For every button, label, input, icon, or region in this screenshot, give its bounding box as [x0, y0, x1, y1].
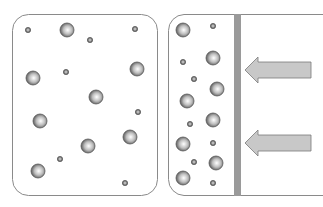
small-particle: [132, 26, 137, 31]
large-particle: [26, 71, 40, 85]
large-particle: [209, 156, 223, 170]
small-particle: [210, 23, 215, 28]
small-particle: [63, 69, 68, 74]
small-particle: [57, 156, 62, 161]
small-particle: [87, 37, 92, 42]
small-particle: [210, 140, 215, 145]
small-particle: [187, 121, 192, 126]
large-particle: [130, 62, 144, 76]
small-particle: [180, 59, 185, 64]
small-particle: [135, 109, 140, 114]
large-particle: [180, 94, 194, 108]
large-particle: [206, 51, 220, 65]
large-particle: [31, 164, 45, 178]
large-particle: [60, 23, 74, 37]
piston: [234, 14, 241, 196]
small-particle: [210, 180, 215, 185]
large-particle: [176, 171, 190, 185]
large-particle: [33, 114, 47, 128]
small-particle: [191, 76, 196, 81]
small-particle: [25, 27, 30, 32]
large-particle: [176, 137, 190, 151]
large-particle: [81, 139, 95, 153]
large-particle: [176, 23, 190, 37]
large-particle: [206, 113, 220, 127]
small-particle: [122, 180, 127, 185]
small-particle: [191, 159, 196, 164]
diagram-canvas: [0, 0, 323, 207]
large-particle: [89, 90, 103, 104]
large-particle: [123, 130, 137, 144]
large-particle: [210, 82, 224, 96]
